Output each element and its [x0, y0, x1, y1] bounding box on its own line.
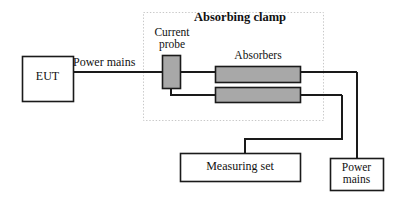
current-probe-label: Current probe: [146, 27, 198, 50]
power-mains-box-label-line2: mains: [330, 174, 383, 186]
current-probe-label-line2: probe: [146, 39, 198, 51]
absorbing-clamp-diagram: EUT Power mains Absorbing clamp Current …: [0, 0, 401, 201]
absorbing-clamp-title: Absorbing clamp: [160, 11, 320, 24]
power-mains-wire-label: Power mains: [73, 56, 135, 68]
eut-label: EUT: [22, 70, 73, 82]
wire-second-absorber-to-measuring-set: [245, 95, 342, 153]
absorber-bar-top: [216, 67, 301, 83]
absorbers-label: Absorbers: [215, 50, 301, 62]
current-probe-block: [163, 56, 181, 89]
power-mains-box-label: Power mains: [330, 162, 383, 185]
measuring-set-label: Measuring set: [180, 160, 300, 172]
power-mains-box-label-line1: Power: [330, 162, 383, 174]
absorber-bar-bottom: [216, 88, 301, 103]
current-probe-label-line1: Current: [146, 27, 198, 39]
